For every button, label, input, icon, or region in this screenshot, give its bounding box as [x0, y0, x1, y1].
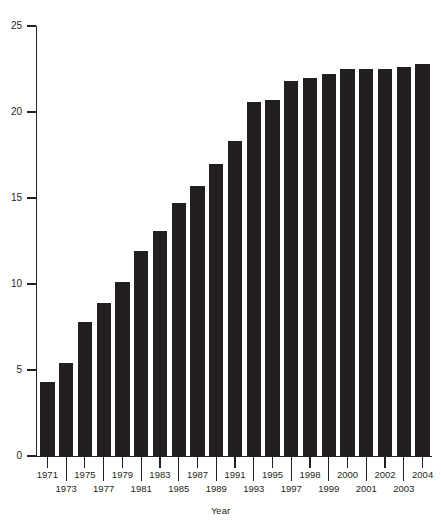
bar [59, 363, 73, 456]
x-tick-mark [197, 457, 198, 468]
bar [415, 64, 429, 456]
bar [359, 69, 373, 456]
x-tick-mark [122, 457, 123, 468]
bar [322, 74, 336, 456]
x-tick-label: 1993 [243, 484, 264, 494]
x-tick-mark [328, 457, 329, 481]
bar [115, 282, 129, 456]
x-tick-mark [347, 457, 348, 468]
bar [265, 100, 279, 456]
bar-chart: 0510152025 19711973197519771979198119831… [0, 0, 441, 527]
x-tick-label: 1981 [131, 484, 152, 494]
y-tick-label: 0 [0, 451, 22, 461]
bar [284, 81, 298, 456]
x-tick-mark [422, 457, 423, 468]
bar [134, 251, 148, 456]
x-tick-mark [403, 457, 404, 481]
y-tick-label: 10 [0, 279, 22, 289]
x-tick-mark [47, 457, 48, 468]
x-tick-mark [178, 457, 179, 481]
x-tick-mark [366, 457, 367, 481]
bar [97, 303, 111, 456]
x-tick-label: 1983 [149, 470, 170, 480]
y-tick-mark [27, 111, 36, 112]
x-tick-mark [103, 457, 104, 481]
bar [40, 382, 54, 456]
y-tick-mark [27, 283, 36, 284]
x-tick-label: 1977 [93, 484, 114, 494]
y-tick-label: 25 [0, 21, 22, 31]
y-tick-label: 5 [0, 365, 22, 375]
x-tick-label: 2003 [393, 484, 414, 494]
x-tick-mark [253, 457, 254, 481]
plot-area: 0510152025 19711973197519771979198119831… [0, 0, 441, 527]
x-tick-mark [272, 457, 273, 468]
x-tick-label: 1985 [168, 484, 189, 494]
x-tick-label: 2002 [375, 470, 396, 480]
bar [190, 186, 204, 456]
x-tick-label: 1973 [56, 484, 77, 494]
bar [228, 141, 242, 456]
x-tick-label: 2001 [356, 484, 377, 494]
bar [247, 102, 261, 456]
x-tick-label: 1997 [281, 484, 302, 494]
y-tick-mark [27, 369, 36, 370]
y-tick-mark [27, 455, 36, 456]
x-tick-label: 1989 [206, 484, 227, 494]
bar [303, 78, 317, 456]
y-tick-mark [27, 25, 36, 26]
x-tick-label: 1987 [187, 470, 208, 480]
x-tick-mark [234, 457, 235, 468]
x-tick-mark [216, 457, 217, 481]
bar [340, 69, 354, 456]
x-tick-label: 1998 [299, 470, 320, 480]
bar [378, 69, 392, 456]
x-tick-label: 2004 [412, 470, 433, 480]
y-tick-mark [27, 197, 36, 198]
bar [209, 164, 223, 456]
x-tick-label: 1975 [74, 470, 95, 480]
bar [397, 67, 411, 456]
x-tick-mark [384, 457, 385, 468]
x-tick-mark [159, 457, 160, 468]
x-axis-title: Year [0, 505, 441, 516]
x-tick-label: 2000 [337, 470, 358, 480]
x-tick-label: 1999 [318, 484, 339, 494]
x-tick-label: 1991 [224, 470, 245, 480]
y-tick-label: 20 [0, 107, 22, 117]
x-tick-label: 1995 [262, 470, 283, 480]
x-tick-mark [291, 457, 292, 481]
bar [172, 203, 186, 456]
y-tick-label: 15 [0, 193, 22, 203]
y-axis-line [36, 26, 37, 456]
x-tick-label: 1979 [112, 470, 133, 480]
bar [78, 322, 92, 456]
bar [153, 231, 167, 456]
x-tick-mark [66, 457, 67, 481]
x-tick-mark [309, 457, 310, 468]
x-tick-mark [84, 457, 85, 468]
x-tick-mark [141, 457, 142, 481]
x-tick-label: 1971 [37, 470, 58, 480]
